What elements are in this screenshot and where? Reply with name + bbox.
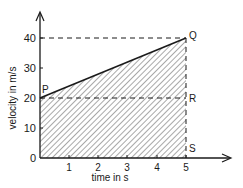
point-label-s: S bbox=[189, 143, 196, 154]
velocity-time-chart: 0 10 20 30 40 1 2 3 4 5 time in s veloci… bbox=[0, 0, 243, 188]
point-label-r: R bbox=[189, 93, 196, 104]
point-label-p: P bbox=[42, 84, 49, 95]
y-axis-title: velocity in m/s bbox=[7, 67, 18, 130]
y-tick-label: 40 bbox=[24, 32, 36, 44]
x-tick-label: 5 bbox=[183, 162, 189, 173]
point-label-q: Q bbox=[189, 30, 197, 41]
y-tick-label: 30 bbox=[24, 62, 36, 74]
x-tick-label: 4 bbox=[154, 162, 160, 173]
x-axis-title: time in s bbox=[91, 172, 128, 183]
y-tick-label: 10 bbox=[24, 122, 36, 134]
y-tick-label: 0 bbox=[30, 152, 36, 164]
x-tick-label: 1 bbox=[66, 162, 72, 173]
y-tick-label: 20 bbox=[24, 92, 36, 104]
